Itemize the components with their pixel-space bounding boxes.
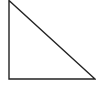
right-triangle-diagram	[0, 0, 96, 90]
diagram-canvas	[0, 0, 96, 90]
right-triangle	[9, 1, 95, 80]
